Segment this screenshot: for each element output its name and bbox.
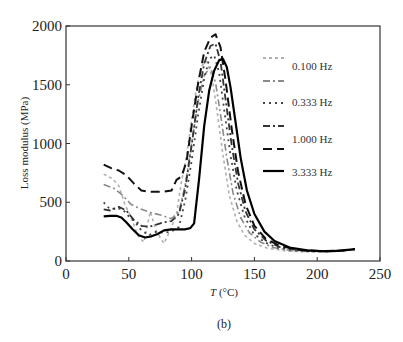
x-tick-label: 0 (62, 266, 70, 282)
y-tick-label: 1500 (32, 77, 62, 93)
legend-label: 0.333 Hz (292, 96, 332, 108)
legend-label: 3.333 Hz (292, 166, 332, 178)
series-line (104, 67, 355, 252)
x-tick-label: 50 (121, 266, 136, 282)
series-line (104, 61, 355, 252)
legend: 0.100 Hz0.333 Hz1.000 Hz3.333 Hz (263, 58, 332, 178)
loss-modulus-chart: 0500100015002000 050100150200250 0.100 H… (0, 0, 403, 342)
x-tick-label: 250 (369, 266, 392, 282)
x-axis-title-unit: (°C) (216, 286, 238, 299)
x-tick-label: 200 (306, 266, 329, 282)
x-tick-label: 150 (243, 266, 266, 282)
y-tick-label: 2000 (32, 18, 62, 34)
legend-label: 1.000 Hz (292, 133, 332, 145)
y-axis-title: Loss modulus (MPa) (18, 97, 31, 190)
y-tick-label: 0 (55, 253, 63, 269)
x-tick-label: 100 (180, 266, 203, 282)
series-line (104, 59, 355, 252)
legend-label: 0.100 Hz (292, 60, 332, 72)
figure-caption: (b) (217, 317, 231, 331)
x-axis-title: T (°C) (210, 286, 238, 299)
y-axis-ticks: 0500100015002000 (32, 18, 70, 269)
y-tick-label: 500 (40, 194, 63, 210)
y-tick-label: 1000 (32, 136, 62, 152)
